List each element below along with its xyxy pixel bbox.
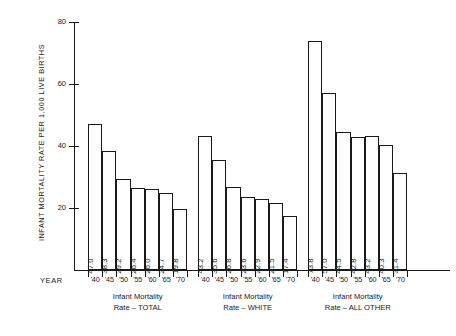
bar: 40.3 xyxy=(379,145,393,270)
group-caption-line2: Rate – ALL OTHER xyxy=(290,303,425,314)
x-tick-label: '50 xyxy=(336,275,350,284)
x-tick-label: '65 xyxy=(269,275,283,284)
bar: 43.2 xyxy=(198,136,212,270)
bar: 42.8 xyxy=(351,137,365,270)
bar: 19.8 xyxy=(173,209,187,270)
x-tick-label: '55 xyxy=(131,275,145,284)
x-tick-label: '70 xyxy=(173,275,187,284)
year-axis-label: YEAR xyxy=(40,276,63,285)
x-tick-label: '70 xyxy=(393,275,407,284)
x-tick xyxy=(297,270,298,277)
bar: 73.8 xyxy=(308,41,322,270)
bar: 44.5 xyxy=(336,132,350,270)
x-tick-label: '60 xyxy=(145,275,159,284)
x-tick xyxy=(407,270,408,277)
x-tick-label: '65 xyxy=(159,275,173,284)
x-tick-label: '70 xyxy=(283,275,297,284)
x-tick-label: '45 xyxy=(322,275,336,284)
x-tick-label: '60 xyxy=(365,275,379,284)
infant-mortality-bar-chart: INFANT MORTALITY RATE PER 1,000 LIVE BIR… xyxy=(0,0,456,336)
group-caption: Infant MortalityRate – ALL OTHER xyxy=(290,292,425,313)
x-tick xyxy=(187,270,188,277)
bar: 17.4 xyxy=(283,216,297,270)
x-tick-label: '50 xyxy=(226,275,240,284)
x-tick-label: '45 xyxy=(212,275,226,284)
bar: 35.6 xyxy=(212,160,226,270)
x-tick-label: '40 xyxy=(88,275,102,284)
x-tick-label: '55 xyxy=(351,275,365,284)
bar: 47.0 xyxy=(88,124,102,270)
x-tick-label: '55 xyxy=(241,275,255,284)
x-tick-label: '65 xyxy=(379,275,393,284)
x-tick-label: '60 xyxy=(255,275,269,284)
x-tick-label: '40 xyxy=(308,275,322,284)
bar: 43.2 xyxy=(365,136,379,270)
bars-layer: 47.038.329.226.426.024.719.843.235.626.8… xyxy=(0,0,456,270)
bar: 31.4 xyxy=(393,173,407,270)
x-tick-label: '50 xyxy=(116,275,130,284)
x-tick-label: '40 xyxy=(198,275,212,284)
bar: 57.0 xyxy=(322,93,336,270)
group-caption-line1: Infant Mortality xyxy=(290,292,425,303)
bar: 38.3 xyxy=(102,151,116,270)
bar: 29.2 xyxy=(116,179,130,270)
x-tick-label: '45 xyxy=(102,275,116,284)
